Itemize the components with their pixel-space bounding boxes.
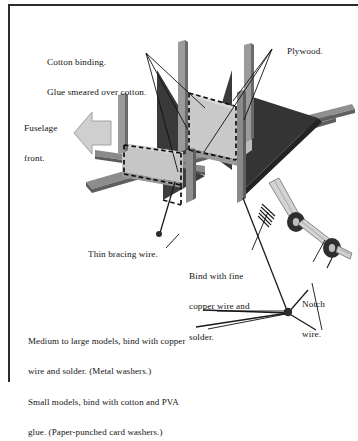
label-plywood: Plywood. [287,46,323,56]
upright-post-right-front [237,90,246,203]
label-bind-copper-line1: Bind with fine [189,271,250,281]
label-bind-copper-line2: copper wire and [189,301,250,311]
label-washer-note-line2: wire and solder. (Metal washers.) [28,366,186,376]
washer-assembly-detail [269,178,352,268]
label-fuselage-front: Fuselage front. [24,102,57,184]
label-washer-note-line4: glue. (Paper-punched card washers.) [28,427,186,437]
label-bind-copper-wire: Bind with fine copper wire and solder. [189,250,250,363]
label-bind-copper-line3: solder. [189,332,250,342]
label-notch-wire-line1: Notch [302,299,325,309]
label-notch-wire-line2: wire. [302,329,325,339]
label-fuselage-front-line2: front. [24,153,57,163]
upright-post-centre-front [186,148,196,203]
label-washer-note-line3: Small models, bind with cotton and PVA [28,397,186,407]
upright-post-centre-rear [178,40,188,153]
label-fuselage-front-line1: Fuselage [24,123,57,133]
label-cotton-binding-line2: Glue smeared over cotton. [47,87,146,97]
label-washer-note-line1: Medium to large models, bind with copper [28,336,186,346]
label-cotton-binding-line1: Cotton binding. [47,57,146,67]
label-notch-wire: Notch wire. [302,278,325,360]
label-cotton-binding: Cotton binding. Glue smeared over cotton… [47,36,146,118]
label-thin-bracing-wire: Thin bracing wire. [88,249,158,259]
label-washer-note: Medium to large models, bind with copper… [28,316,186,441]
